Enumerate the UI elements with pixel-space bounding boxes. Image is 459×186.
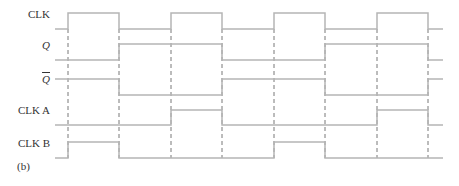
waveform-clk-b: [55, 142, 443, 158]
waveform-clk: [55, 13, 443, 29]
waveform-clk-a: [55, 110, 443, 125]
waveform-q: [55, 44, 443, 60]
waveform-q-bar: [55, 79, 443, 95]
figure-caption: (b): [17, 160, 30, 172]
waveform-canvas: [0, 0, 459, 186]
